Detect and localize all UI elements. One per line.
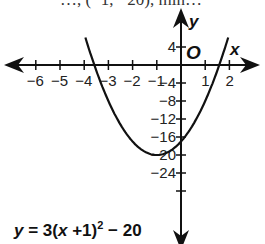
y-tick-label: −24 [151, 164, 176, 181]
axes [14, 18, 250, 240]
y-tick-label: −16 [151, 128, 176, 145]
x-tick-label: −5 [51, 72, 68, 89]
parabola-graph: −6−5−4−3−2−1124−4−8−12−16−20−24 y x O [0, 0, 265, 244]
x-axis-label: x [229, 40, 241, 59]
y-tick-label: −12 [151, 110, 176, 127]
y-tick-label: −8 [159, 92, 176, 109]
x-tick-label: 1 [201, 72, 209, 89]
x-tick-label: −2 [124, 72, 141, 89]
equation-label: y = 3(x +1)2 − 20 [14, 219, 142, 241]
x-tick-label: −4 [75, 72, 92, 89]
x-tick-label: 2 [225, 72, 233, 89]
y-axis-label: y [188, 12, 200, 31]
y-tick-label: 4 [168, 38, 176, 55]
x-tick-label: −6 [27, 72, 44, 89]
origin-label: O [186, 42, 201, 63]
y-tick-label: −4 [159, 74, 176, 91]
